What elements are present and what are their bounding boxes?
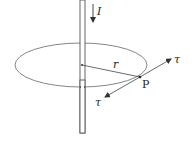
point-p-label: P	[142, 78, 150, 91]
diagram-canvas: I r P τ τ	[0, 0, 195, 145]
tangent-vector-forward	[140, 59, 171, 77]
current-label: I	[96, 5, 102, 18]
point-p	[139, 76, 142, 79]
radius-label: r	[113, 58, 119, 71]
radius-line	[82, 65, 140, 77]
tangent-forward-label: τ	[174, 53, 181, 66]
tangent-backward-label: τ	[95, 96, 102, 109]
tangent-vector-backward	[105, 77, 140, 97]
